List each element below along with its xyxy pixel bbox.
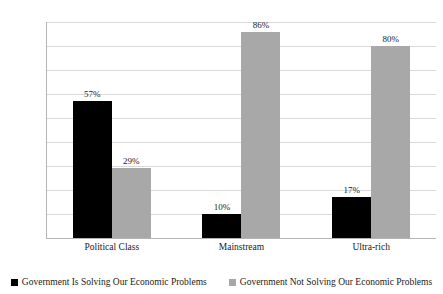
x-axis-category-label: Mainstream [219,242,264,252]
bar: 86% [241,32,280,238]
legend-item[interactable]: Government Not Solving Our Economic Prob… [229,277,432,287]
bar: 80% [371,46,410,238]
legend-item[interactable]: Government Is Solving Our Economic Probl… [11,277,207,287]
gridline [47,238,436,239]
bar: 57% [73,101,112,238]
legend-label: Government Is Solving Our Economic Probl… [22,277,207,287]
x-axis-category-label: Ultra-rich [352,242,389,252]
bar-value-label: 86% [253,21,270,30]
bar-chart: 90%80%70%60%50%40%30%20%10%0% 57%29%Poli… [0,0,443,294]
bar: 17% [332,197,371,238]
bar: 29% [112,168,151,238]
plot-area: 90%80%70%60%50%40%30%20%10%0% 57%29%Poli… [47,22,436,238]
bar-value-label: 29% [123,157,140,166]
bar-group: 10%86%Mainstream [177,22,307,238]
bar-value-label: 80% [382,35,399,44]
chart-legend: Government Is Solving Our Economic Probl… [0,277,443,287]
legend-label: Government Not Solving Our Economic Prob… [240,277,432,287]
bar-value-label: 17% [343,186,360,195]
bar-group: 57%29%Political Class [47,22,177,238]
bar-value-label: 57% [84,90,101,99]
bar-value-label: 10% [214,203,231,212]
bar-group: 17%80%Ultra-rich [306,22,436,238]
bar: 10% [202,214,241,238]
square-gray-icon [229,279,236,286]
square-black-icon [11,279,18,286]
x-axis-category-label: Political Class [85,242,140,252]
